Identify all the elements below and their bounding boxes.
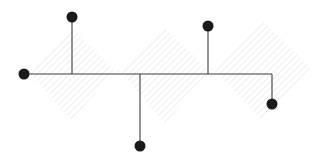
- node-top-right[interactable]: [203, 21, 214, 32]
- diagram-svg: [0, 0, 317, 157]
- node-left[interactable]: [19, 69, 30, 80]
- diagram-canvas: [0, 0, 317, 157]
- node-bottom-right[interactable]: [267, 99, 278, 110]
- node-top-left[interactable]: [67, 12, 78, 23]
- node-bottom-center[interactable]: [135, 141, 146, 152]
